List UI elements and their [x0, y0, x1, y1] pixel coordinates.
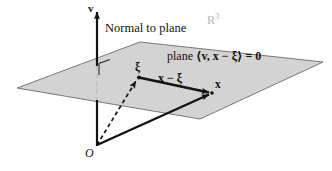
- ambient-space-exponent: 3: [215, 11, 219, 21]
- point-x-label: x: [215, 79, 221, 91]
- difference-vector-label: x − ξ: [158, 72, 182, 84]
- normal-axis-label: v: [88, 3, 94, 14]
- ambient-space-symbol: R: [207, 13, 215, 27]
- plane-equation-prefix: plane: [167, 49, 193, 63]
- projection-diagram: v Normal to plane R3 plane ⟨v, x − ξ⟩ = …: [0, 0, 332, 171]
- plane-equation-expression: ⟨v, x − ξ⟩ = 0: [196, 49, 261, 63]
- normal-caption-label: Normal to plane: [105, 22, 186, 35]
- point-x-dot: [210, 91, 214, 95]
- origin-label: O: [85, 147, 94, 159]
- ambient-space-label: R3: [207, 12, 219, 26]
- foot-point-label: ξ: [135, 62, 140, 74]
- plane-equation-label: plane ⟨v, x − ξ⟩ = 0: [167, 50, 261, 62]
